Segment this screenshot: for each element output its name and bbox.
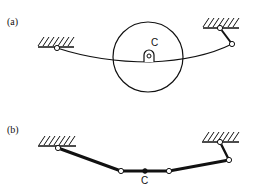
joint-2-b [166, 168, 171, 173]
attachment-point-c [144, 50, 154, 62]
link-chain [58, 142, 229, 171]
point-c-label-a: C [151, 37, 158, 48]
mechanism-diagram: (a) C [0, 0, 254, 187]
link-1 [58, 148, 121, 171]
panel-a-label: (a) [7, 16, 18, 28]
point-c-label-b: C [141, 175, 148, 186]
pivot-left-b [55, 145, 60, 150]
joint-3-b [226, 157, 231, 162]
ground-support-left-b [38, 136, 76, 146]
joint-1-b [118, 168, 123, 173]
panel-b: (b) [7, 124, 239, 186]
panel-a: (a) C [7, 16, 239, 92]
link-3 [169, 160, 229, 171]
pivot-right-a [229, 41, 234, 46]
panel-b-label: (b) [7, 124, 19, 136]
pivot-top-right-b [217, 139, 222, 144]
pivot-top-right-a [217, 25, 222, 30]
joint-c-b [143, 169, 148, 174]
pivot-left-a [54, 45, 59, 50]
